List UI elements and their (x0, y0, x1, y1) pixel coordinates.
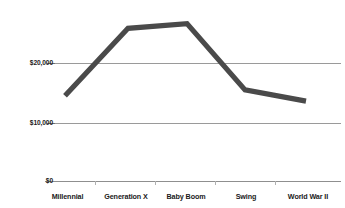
gridlines (45, 64, 341, 182)
y-axis-label-20000: $20,000 (30, 60, 53, 67)
x-axis-label-millennial: Millennial (39, 193, 96, 200)
y-axis-label-0: $0 (46, 178, 53, 185)
x-axis-label-world-war-ii: World War II (277, 193, 339, 200)
y-axis-tick-marks (47, 64, 55, 124)
x-axis-label-swing: Swing (217, 193, 275, 200)
y-axis-label-10000: $10,000 (30, 120, 53, 127)
x-axis-label-baby-boom: Baby Boom (157, 193, 215, 200)
x-axis-label-generation-x: Generation X (97, 193, 155, 200)
line-chart: $20,000 $10,000 $0 Millennial Generation… (0, 0, 345, 208)
data-series-line (65, 24, 306, 102)
